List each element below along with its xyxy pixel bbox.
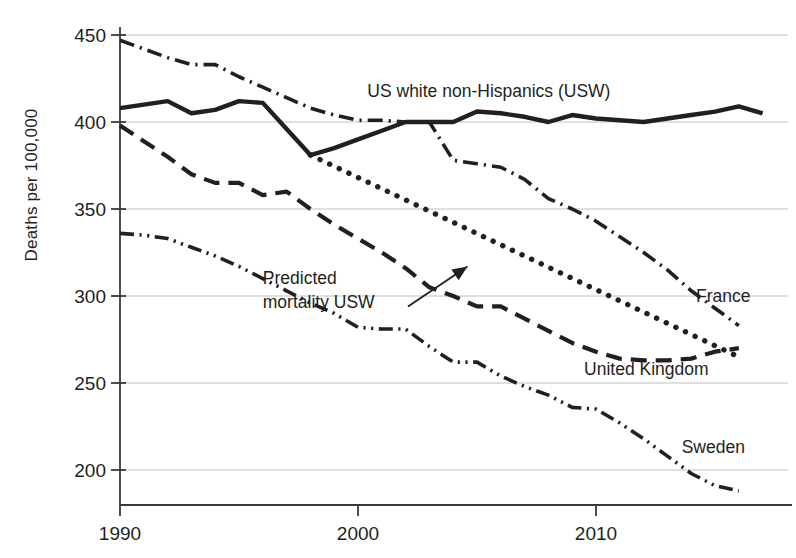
annotation: Predictedmortality USW bbox=[263, 266, 468, 311]
series-label: France bbox=[696, 286, 750, 306]
annotation-line-2: mortality USW bbox=[263, 292, 375, 312]
y-tick-label: 350 bbox=[74, 199, 106, 220]
annotation-line-1: Predicted bbox=[263, 268, 337, 288]
series-label: US white non-Hispanics (USW) bbox=[367, 81, 610, 101]
x-tick-label: 2000 bbox=[337, 523, 379, 544]
series-group bbox=[120, 40, 763, 491]
y-tick-label: 250 bbox=[74, 373, 106, 394]
series-label: Sweden bbox=[682, 437, 745, 457]
series-labels: US white non-Hispanics (USW)FranceUnited… bbox=[367, 81, 750, 458]
series-line bbox=[120, 125, 739, 360]
series-label: United Kingdom bbox=[584, 359, 709, 379]
y-tick-label: 450 bbox=[74, 25, 106, 46]
series-line bbox=[310, 155, 738, 357]
y-axis-ticks: 200250300350400450 bbox=[74, 25, 126, 481]
y-tick-label: 400 bbox=[74, 112, 106, 133]
y-tick-label: 300 bbox=[74, 286, 106, 307]
x-tick-label: 2010 bbox=[575, 523, 617, 544]
x-axis-ticks: 199020002010 bbox=[99, 505, 617, 544]
y-tick-label: 200 bbox=[74, 460, 106, 481]
mortality-line-chart: Deaths per 100,000 200250300350400450199… bbox=[0, 0, 796, 558]
x-tick-label: 1990 bbox=[99, 523, 141, 544]
annotation-arrow-head bbox=[451, 266, 467, 280]
chart-canvas: 200250300350400450199020002010US white n… bbox=[0, 0, 796, 558]
series-line bbox=[120, 101, 763, 155]
